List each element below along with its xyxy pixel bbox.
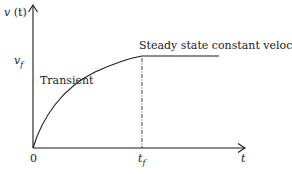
diagram-graphics — [0, 0, 292, 174]
tf-label: tf — [138, 153, 145, 167]
x-axis-label: t — [241, 153, 245, 164]
velocity-time-diagram: v (t) vf Transient Steady state constant… — [0, 0, 292, 174]
origin-label: 0 — [30, 153, 37, 164]
vf-sub: f — [20, 60, 23, 69]
transient-curve — [33, 56, 142, 148]
y-axis-label: v (t) — [4, 7, 27, 18]
steady-state-label: Steady state constant velocity = V — [139, 40, 292, 51]
transient-label: Transient — [40, 75, 93, 86]
y-axis-arg: (t) — [14, 6, 27, 19]
y-axis-var: v — [4, 6, 10, 19]
tf-sub: f — [142, 158, 145, 167]
vf-label: vf — [14, 55, 23, 69]
steady-text: Steady state constant velocity = — [139, 39, 292, 52]
